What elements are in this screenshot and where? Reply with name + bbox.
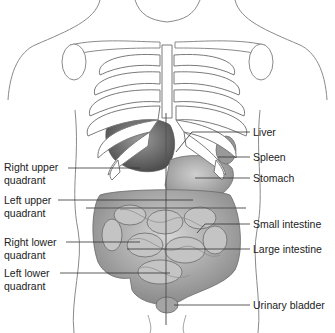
label-spleen: Spleen [253,151,286,164]
pelvis-lines [148,315,186,333]
label-urinary-bladder: Urinary bladder [253,299,325,312]
label-right-lower-quadrant: Right lower quadrant [4,236,57,262]
label-line: quadrant [4,249,57,262]
label-left-lower-quadrant: Left lower quadrant [4,267,50,293]
label-liver: Liver [253,126,276,139]
label-line: quadrant [4,280,50,293]
label-line: quadrant [4,207,51,220]
label-line: quadrant [4,174,58,187]
label-line: Left upper [4,194,51,207]
label-line: Right lower [4,236,57,249]
label-line: Right upper [4,161,58,174]
label-line: Left lower [4,267,50,280]
label-left-upper-quadrant: Left upper quadrant [4,194,51,220]
label-right-upper-quadrant: Right upper quadrant [4,161,58,187]
anatomy-diagram: Right upper quadrant Left upper quadrant… [0,0,335,333]
label-small-intestine: Small intestine [253,218,321,231]
label-stomach: Stomach [253,172,294,185]
intestines [93,190,241,305]
label-large-intestine: Large intestine [253,243,322,256]
